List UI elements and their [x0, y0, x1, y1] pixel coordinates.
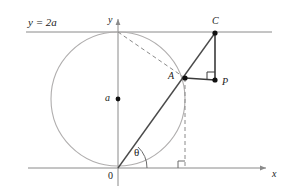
point-c-dot: [212, 30, 217, 35]
right-angle-marker-foot: [178, 161, 185, 168]
label-point-c: C: [212, 16, 219, 26]
segment-a-to-p: [185, 78, 215, 80]
point-a-dot: [182, 75, 187, 80]
angle-arc-theta: [138, 147, 147, 168]
label-origin: 0: [108, 171, 113, 181]
dashed-chord-top-to-a: [118, 32, 185, 78]
label-point-p: P: [222, 77, 228, 87]
circle-center-dot: [116, 97, 121, 102]
label-y-axis: y: [108, 15, 112, 25]
label-line-equation: y = 2a: [28, 17, 57, 28]
geometry-figure: y = 2a y x 0 a A C P θ: [0, 0, 288, 194]
label-angle-theta: θ: [134, 147, 139, 158]
label-point-a: A: [168, 71, 174, 81]
figure-canvas: [0, 0, 288, 194]
point-p-dot: [212, 77, 217, 82]
label-circle-center: a: [105, 93, 110, 103]
label-x-axis: x: [272, 169, 276, 179]
